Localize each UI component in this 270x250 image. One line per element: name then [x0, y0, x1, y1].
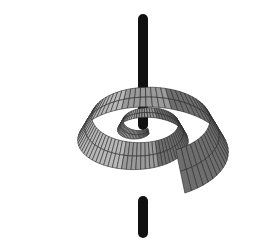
spiral-surface-illustration	[0, 0, 270, 250]
spiral-ribbon	[78, 87, 229, 193]
figure-canvas	[0, 0, 270, 250]
axis-rod-bottom	[138, 196, 148, 238]
